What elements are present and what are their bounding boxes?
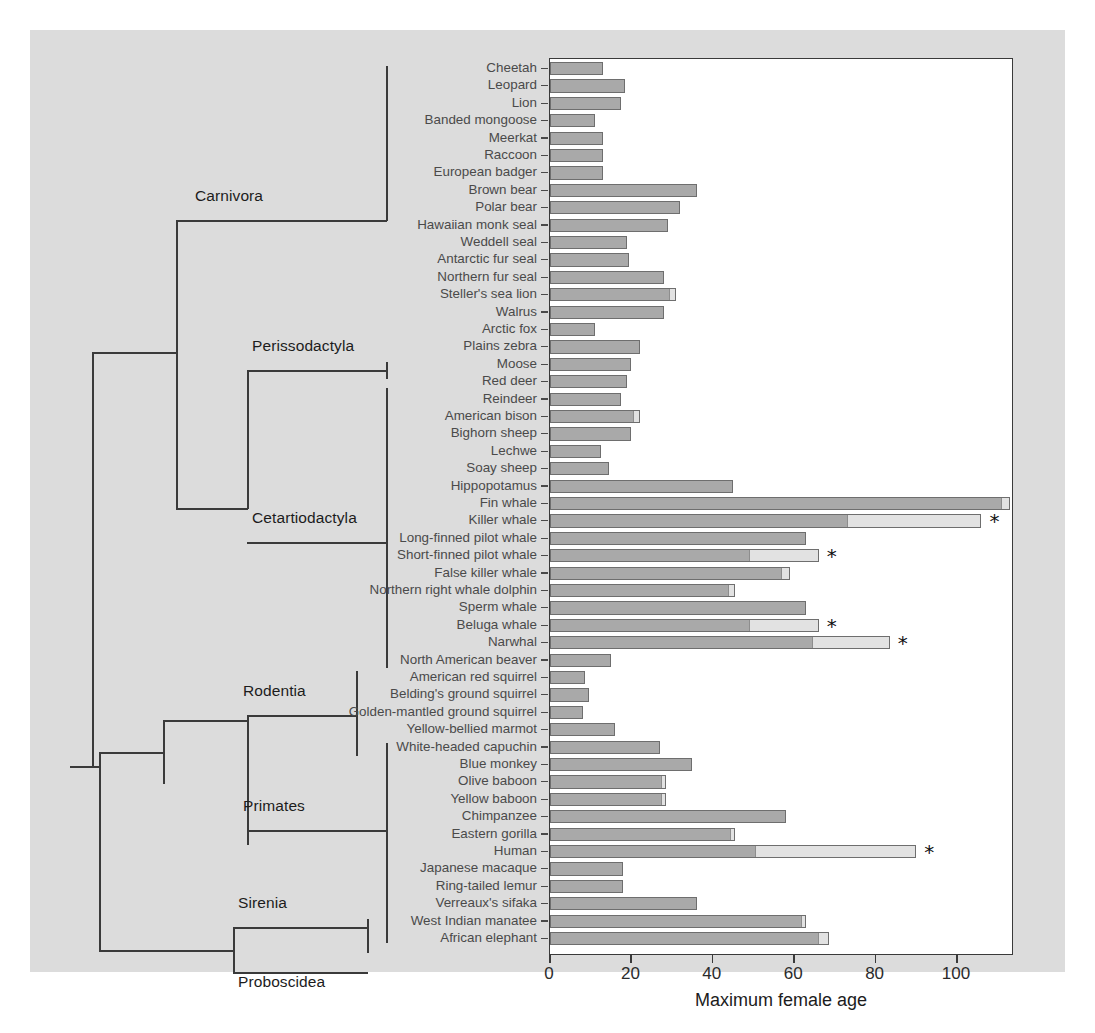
bar-segment-reproductive <box>551 150 602 161</box>
y-axis-tick <box>541 451 548 452</box>
species-label: Yellow baboon <box>450 790 537 807</box>
y-axis-tick <box>541 242 548 243</box>
bar-segment-reproductive <box>551 585 728 596</box>
species-bar <box>550 79 625 92</box>
y-axis-tick <box>541 868 548 869</box>
y-axis-tick <box>541 329 548 330</box>
x-axis-tick-label: 60 <box>784 964 803 984</box>
bar-segment-reproductive <box>551 550 749 561</box>
bar-row: * <box>550 547 1012 564</box>
bar-segment-reproductive <box>551 428 630 439</box>
species-bar <box>550 567 790 580</box>
bar-row <box>550 356 1012 373</box>
bar-segment-reproductive <box>551 481 732 492</box>
bar-segment-postreproductive <box>661 794 665 805</box>
species-bar <box>550 132 603 145</box>
species-label: Arctic fox <box>482 320 537 337</box>
species-bar <box>550 236 627 249</box>
bar-segment-reproductive <box>551 98 620 109</box>
bar-segment-reproductive <box>551 498 1001 509</box>
y-axis-tick <box>541 712 548 713</box>
figure-panel: Carnivora Perissodactyla Cetartiodactyla… <box>30 30 1065 972</box>
species-label: Short-finned pilot whale <box>397 546 537 563</box>
bar-row <box>550 860 1012 877</box>
bar-segment-reproductive <box>551 620 749 631</box>
bar-segment-reproductive <box>551 933 818 944</box>
bar-row <box>550 599 1012 616</box>
bar-row <box>550 791 1012 808</box>
y-axis-tick <box>541 259 548 260</box>
x-axis-tick-label: 40 <box>702 964 721 984</box>
bar-segment-postreproductive <box>730 829 734 840</box>
species-label: Eastern gorilla <box>451 825 537 842</box>
species-label: Lion <box>512 94 537 111</box>
y-axis-tick <box>541 85 548 86</box>
bar-row <box>550 808 1012 825</box>
bar-segment-postreproductive <box>1001 498 1009 509</box>
y-axis-tick <box>541 694 548 695</box>
species-bar <box>550 549 819 562</box>
y-axis-tick <box>541 659 548 660</box>
species-bar <box>550 149 603 162</box>
bar-row <box>550 60 1012 77</box>
significance-asterisk: * <box>827 621 837 631</box>
bar-row <box>550 495 1012 512</box>
species-label: Killer whale <box>469 511 537 528</box>
y-axis-tick <box>541 224 548 225</box>
bar-row <box>550 739 1012 756</box>
y-axis-tick <box>541 799 548 800</box>
y-axis-tick <box>541 642 548 643</box>
y-axis-tick <box>541 555 548 556</box>
bar-segment-reproductive <box>551 133 602 144</box>
species-bar <box>550 845 916 858</box>
species-label: African elephant <box>440 929 537 946</box>
species-bar <box>550 793 666 806</box>
species-bar <box>550 775 666 788</box>
y-axis-tick <box>541 137 548 138</box>
species-bar <box>550 915 806 928</box>
bar-segment-reproductive <box>551 689 588 700</box>
species-label: Olive baboon <box>458 772 537 789</box>
species-label: Narwhal <box>488 633 537 650</box>
species-label: Long-finned pilot whale <box>399 529 537 546</box>
bar-row <box>550 443 1012 460</box>
y-axis-tick <box>541 155 548 156</box>
species-label: Soay sheep <box>466 459 537 476</box>
bar-row <box>550 147 1012 164</box>
bar-segment-reproductive <box>551 220 667 231</box>
bar-segment-reproductive <box>551 341 639 352</box>
y-axis-tick <box>541 416 548 417</box>
bar-row: * <box>550 634 1012 651</box>
bar-segment-postreproductive <box>749 620 818 631</box>
bar-row: * <box>550 843 1012 860</box>
bar-row <box>550 686 1012 703</box>
bar-segment-postreproductive <box>661 776 665 787</box>
bar-segment-reproductive <box>551 794 661 805</box>
species-bar <box>550 253 629 266</box>
y-axis-tick <box>541 625 548 626</box>
bar-series-container: ***** <box>550 59 1012 954</box>
bar-row <box>550 408 1012 425</box>
bar-row <box>550 112 1012 129</box>
bar-row <box>550 199 1012 216</box>
bar-segment-postreproductive <box>812 637 889 648</box>
bar-segment-postreproductive <box>669 289 675 300</box>
significance-asterisk: * <box>827 551 837 561</box>
species-label: Steller's sea lion <box>440 285 537 302</box>
y-axis-tick <box>541 381 548 382</box>
bar-segment-reproductive <box>551 289 669 300</box>
bar-row <box>550 756 1012 773</box>
y-axis-tick <box>541 816 548 817</box>
y-axis-tick <box>541 468 548 469</box>
bar-row <box>550 652 1012 669</box>
y-axis-tick <box>541 781 548 782</box>
species-label: Weddell seal <box>461 233 537 250</box>
bar-row <box>550 930 1012 947</box>
species-bar <box>550 393 621 406</box>
bar-row <box>550 164 1012 181</box>
y-axis-tick <box>541 833 548 834</box>
bar-segment-postreproductive <box>633 411 639 422</box>
bar-row <box>550 391 1012 408</box>
bar-segment-reproductive <box>551 272 663 283</box>
species-bar <box>550 741 660 754</box>
